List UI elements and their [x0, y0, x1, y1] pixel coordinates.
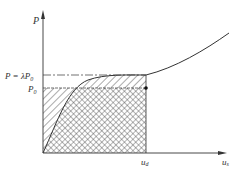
operating-point: [144, 86, 148, 90]
y-axis-arrow-icon: [41, 10, 45, 19]
level-high-label: P = λP0: [4, 71, 33, 82]
pv-diagram: P P = λP0 P0 ud us: [0, 0, 240, 177]
x-axis-label: us: [222, 157, 230, 167]
x-axis-arrow-icon: [218, 151, 227, 155]
level-low-label: P0: [27, 84, 37, 95]
y-axis-label: P: [32, 15, 39, 26]
ud-label: ud: [141, 157, 150, 167]
